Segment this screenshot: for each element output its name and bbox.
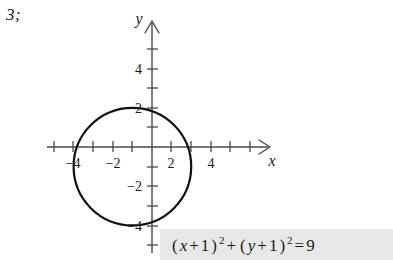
equation-highlight-box: (x+1)2+(y+1)2=9 (160, 229, 393, 260)
x-tick-label-2: 2 (168, 156, 175, 171)
y-tick-label-2: 2 (135, 101, 142, 116)
equation-close-paren-1: ) (209, 236, 219, 255)
equation-text: (x+1)2+(y+1)2=9 (170, 235, 315, 254)
figure-root: 3; (0, 0, 393, 260)
y-tick-label-neg4: −4 (127, 219, 142, 234)
equation-plus-main: + (224, 236, 238, 255)
coordinate-plane-plot: −4 −2 2 4 4 2 −2 −4 x y (0, 0, 393, 260)
equation-exponent-2: 2 (287, 234, 293, 246)
equation-plus-inner-2: + (255, 236, 269, 255)
equation-close-paren-2: ) (277, 236, 287, 255)
equation-right-hand-side: 9 (306, 236, 315, 255)
x-tick-label-4: 4 (208, 156, 215, 171)
x-tick-label-neg2: −2 (106, 156, 121, 171)
x-tick-label-neg4: −4 (66, 156, 81, 171)
y-axis-name-label: y (133, 10, 143, 28)
y-tick-label-neg2: −2 (127, 179, 142, 194)
equation-open-paren-2: ( (238, 236, 248, 255)
equation-plus-inner-1: + (187, 236, 201, 255)
y-tick-label-4: 4 (135, 62, 142, 77)
equation-equals-sign: = (293, 236, 307, 255)
equation-open-paren-1: ( (170, 236, 180, 255)
x-axis-name-label: x (267, 152, 275, 169)
